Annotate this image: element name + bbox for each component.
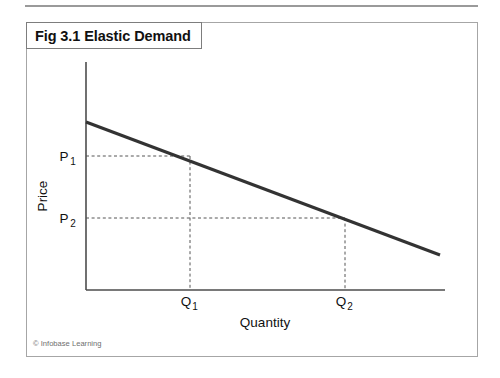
tick-label-q1: Q: [181, 294, 192, 309]
tick-label-p2-subscript: 2: [70, 218, 76, 229]
tick-label-p1: P: [59, 149, 68, 164]
tick-label-q1-subscript: 1: [192, 301, 198, 312]
tick-label-p1-subscript: 1: [70, 156, 76, 167]
demand-curve: [86, 122, 440, 255]
copyright-credit: © Infobase Learning: [33, 339, 102, 348]
tick-label-q2-subscript: 2: [347, 301, 353, 312]
tick-label-p2: P: [59, 211, 68, 226]
y-axis-label: Price: [35, 181, 50, 212]
demand-chart: Price Quantity P 1 P 2 Q 1 Q 2: [0, 0, 500, 378]
x-axis-label: Quantity: [240, 315, 291, 330]
tick-label-q2: Q: [336, 294, 347, 309]
